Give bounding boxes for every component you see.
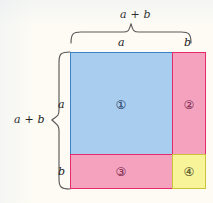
region-3-numeral: ③ — [116, 166, 127, 178]
region-1-numeral: ① — [116, 99, 127, 111]
left-total-length-label: a + b — [14, 114, 45, 125]
top-segment-a-label: a — [118, 37, 125, 48]
left-segment-b-label: b — [58, 166, 65, 177]
square-expansion-diagram: a + b a b a + b a b ① ② ③ ④ — [0, 0, 213, 203]
region-4-numeral: ④ — [184, 166, 195, 178]
region-2-numeral: ② — [184, 99, 195, 111]
top-total-length-label: a + b — [120, 9, 151, 20]
left-segment-a-label: a — [58, 99, 65, 110]
top-segment-b-label: b — [184, 37, 191, 48]
